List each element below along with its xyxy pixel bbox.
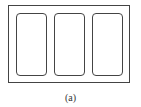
panel-left [16,13,47,76]
panel-right [92,13,123,76]
figure-caption: (a) [0,92,141,103]
panel-middle [54,13,85,76]
